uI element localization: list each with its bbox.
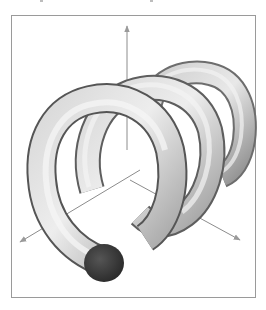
tube-end-cap (84, 244, 124, 282)
helix-figure (0, 0, 266, 310)
